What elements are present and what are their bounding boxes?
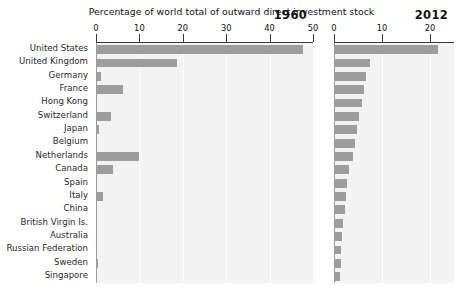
bar bbox=[334, 232, 342, 241]
category-label: Russian Federation bbox=[6, 242, 88, 255]
bar-row bbox=[334, 203, 454, 216]
bar bbox=[334, 179, 347, 188]
bar-row bbox=[334, 70, 454, 83]
bar bbox=[96, 259, 98, 268]
plot-area-1960 bbox=[96, 42, 313, 283]
bar bbox=[96, 152, 139, 161]
x-axis-tick bbox=[96, 34, 97, 42]
bar-row bbox=[334, 243, 454, 256]
bar-row bbox=[96, 110, 313, 123]
bar-row bbox=[96, 96, 313, 109]
bar-row bbox=[334, 43, 454, 56]
x-axis-tick-label: 10 bbox=[134, 23, 145, 33]
bar-row bbox=[334, 110, 454, 123]
bar-row bbox=[334, 190, 454, 203]
bar bbox=[334, 219, 343, 228]
bar-row bbox=[334, 270, 454, 283]
category-label: Canada bbox=[55, 162, 88, 175]
category-label: United Kingdom bbox=[19, 55, 88, 68]
bar-row bbox=[334, 257, 454, 270]
bar-row bbox=[96, 150, 313, 163]
bar-row bbox=[96, 270, 313, 283]
category-label: British Virgin Is. bbox=[21, 216, 88, 229]
bar-row bbox=[96, 163, 313, 176]
bar-row bbox=[96, 177, 313, 190]
bar-row bbox=[96, 257, 313, 270]
bar bbox=[334, 192, 346, 201]
x-axis-tick-label: 0 bbox=[331, 23, 336, 33]
category-label: Italy bbox=[69, 189, 88, 202]
bar-row bbox=[96, 43, 313, 56]
bar-row bbox=[96, 56, 313, 69]
bar bbox=[96, 85, 123, 94]
x-axis-tick-label: 10 bbox=[377, 23, 388, 33]
category-label: Netherlands bbox=[36, 149, 88, 162]
chart-figure: Percentage of world total of outward dir… bbox=[0, 0, 463, 298]
bar bbox=[334, 246, 341, 255]
bar-row bbox=[96, 190, 313, 203]
x-axis-tick-label: 0 bbox=[93, 23, 98, 33]
category-label: Japan bbox=[64, 122, 88, 135]
bar-row bbox=[96, 123, 313, 136]
category-label: France bbox=[59, 82, 88, 95]
bar bbox=[334, 272, 340, 281]
category-label: Switzerland bbox=[38, 109, 88, 122]
category-label: Hong Kong bbox=[41, 95, 88, 108]
bar-row bbox=[334, 96, 454, 109]
x-axis-tick bbox=[313, 34, 314, 42]
category-labels: United StatesUnited KingdomGermanyFrance… bbox=[0, 42, 92, 282]
category-label: Belgium bbox=[53, 135, 88, 148]
category-label: Germany bbox=[49, 69, 89, 82]
x-axis-tick-label: 50 bbox=[308, 23, 319, 33]
bar bbox=[334, 259, 341, 268]
x-axis-tick-label: 20 bbox=[425, 23, 436, 33]
bar bbox=[96, 192, 103, 201]
bar bbox=[96, 72, 101, 81]
x-axis-tick-label: 40 bbox=[264, 23, 275, 33]
year-stamp-1960: 1960 bbox=[274, 8, 307, 22]
bar bbox=[334, 139, 355, 148]
bar bbox=[334, 59, 370, 68]
bar-row bbox=[334, 177, 454, 190]
bar bbox=[334, 152, 353, 161]
bar bbox=[334, 72, 366, 81]
bar bbox=[334, 85, 364, 94]
bar-row bbox=[334, 163, 454, 176]
bar-row bbox=[334, 150, 454, 163]
bar-row bbox=[96, 136, 313, 149]
x-axis-tick-label: 20 bbox=[178, 23, 189, 33]
x-axis-tick bbox=[139, 34, 140, 42]
gridline bbox=[313, 43, 314, 283]
category-label: Sweden bbox=[54, 256, 88, 269]
x-axis-tick bbox=[382, 34, 383, 42]
x-axis-tick bbox=[226, 34, 227, 42]
bar-row bbox=[96, 243, 313, 256]
bar-row bbox=[96, 70, 313, 83]
bar bbox=[96, 165, 113, 174]
category-label: United States bbox=[30, 42, 88, 55]
x-axis-tick bbox=[183, 34, 184, 42]
bar-row bbox=[96, 217, 313, 230]
x-axis-tick bbox=[334, 34, 335, 42]
bar bbox=[334, 165, 349, 174]
bar-row bbox=[334, 83, 454, 96]
bar-row bbox=[334, 56, 454, 69]
category-label: Singapore bbox=[45, 269, 88, 282]
bar bbox=[96, 59, 177, 68]
chart-title: Percentage of world total of outward dir… bbox=[0, 6, 463, 17]
year-stamp-2012: 2012 bbox=[415, 8, 448, 22]
bar bbox=[96, 45, 303, 54]
bar bbox=[334, 125, 357, 134]
bar bbox=[334, 45, 438, 54]
x-axis-tick-label: 30 bbox=[221, 23, 232, 33]
category-label: Spain bbox=[64, 176, 88, 189]
bar-row bbox=[334, 217, 454, 230]
bar-row bbox=[334, 230, 454, 243]
bar-row bbox=[96, 203, 313, 216]
category-label: China bbox=[63, 202, 88, 215]
bar-row bbox=[334, 136, 454, 149]
bar bbox=[334, 112, 359, 121]
category-label: Australia bbox=[50, 229, 88, 242]
bar-row bbox=[96, 83, 313, 96]
x-axis-tick bbox=[430, 34, 431, 42]
